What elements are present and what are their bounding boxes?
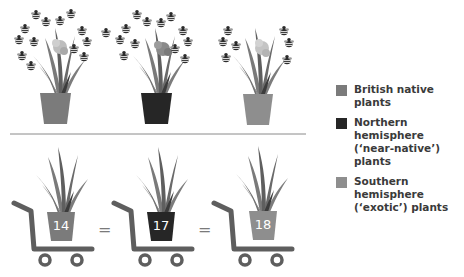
legend-label: Southern hemisphere (‘exotic’) plants [354,175,464,214]
flower-head-icon [154,41,172,56]
trolley-value-british-native: 14 [46,218,76,233]
plant-british-native [14,9,92,124]
equals-sign: = [98,220,111,239]
legend-item-northern-hemisphere: Northern hemisphere (‘near-native’) plan… [336,116,464,168]
legend: British native plants Northern hemispher… [336,83,464,221]
legend-item-british-native: British native plants [336,83,464,109]
plant-southern-hemisphere [218,26,294,125]
pot-northern-hemisphere [141,93,172,124]
trolley-value-northern-hemisphere: 17 [146,218,176,233]
flower-head-icon [52,39,68,55]
trolley-northern-hemisphere [114,147,192,265]
legend-label: Northern hemisphere (‘near-native’) plan… [354,116,464,168]
swatch-northern-hemisphere [336,118,347,129]
swatch-southern-hemisphere [336,177,347,188]
trolley-british-native [14,147,92,265]
flower-head-icon [255,39,270,57]
legend-item-southern-hemisphere: Southern hemisphere (‘exotic’) plants [336,175,464,214]
pot-british-native [40,93,71,124]
plant-northern-hemisphere [101,10,193,124]
swatch-british-native [336,85,347,96]
trolley-value-southern-hemisphere: 18 [248,217,278,232]
trolley-southern-hemisphere [214,146,292,265]
legend-label: British native plants [354,83,464,109]
pot-southern-hemisphere [243,94,273,125]
bee-icons [101,10,193,63]
equals-sign: = [198,220,211,239]
